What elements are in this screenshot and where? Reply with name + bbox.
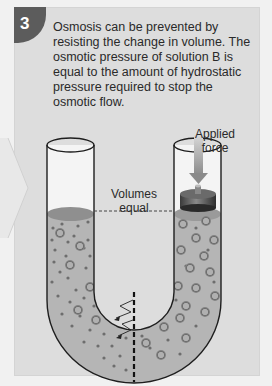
volumes-equal-text: Volumes equal bbox=[111, 187, 157, 215]
applied-force-text: Applied force bbox=[195, 127, 235, 155]
volumes-equal-label: Volumes equal bbox=[108, 187, 160, 215]
applied-force-label: Applied force bbox=[190, 127, 240, 155]
left-meniscus bbox=[47, 207, 94, 221]
